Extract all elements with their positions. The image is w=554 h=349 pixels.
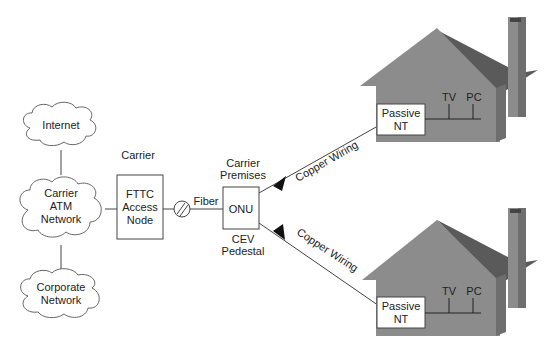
- pedestal-label: Pedestal: [222, 245, 265, 257]
- passive-nt-top-label-1: Passive: [382, 107, 421, 119]
- carrier-atm-cloud: Carrier ATM Network: [20, 177, 101, 237]
- corporate-label-1: Corporate: [37, 281, 86, 293]
- pc-top-label: PC: [466, 91, 481, 103]
- carrier-atm-label-2: ATM: [50, 200, 72, 212]
- internet-cloud: Internet: [23, 102, 95, 145]
- fttc-label-2: Access: [122, 201, 158, 213]
- carrier-label: Carrier: [121, 149, 155, 161]
- fiber-label: Fiber: [193, 195, 218, 207]
- tv-top-label: TV: [442, 91, 457, 103]
- carrier-atm-label-1: Carrier: [44, 187, 78, 199]
- pc-bottom-label: PC: [466, 285, 481, 297]
- onu-label: ONU: [229, 203, 254, 215]
- copper-wiring-top-label: Copper Wiring: [293, 138, 360, 184]
- carrier-premises-label-1: Carrier: [226, 157, 260, 169]
- arrowhead-bottom-icon: [273, 224, 285, 240]
- carrier-premises-label-2: Premises: [220, 169, 266, 181]
- fiber-splice-icon: [174, 201, 190, 217]
- passive-nt-top-label-2: NT: [394, 120, 409, 132]
- copper-wiring-bottom-label: Copper Wiring: [295, 226, 361, 274]
- house-bottom: Passive NT TV PC: [362, 208, 538, 336]
- carrier-atm-label-3: Network: [41, 213, 82, 225]
- fttc-diagram: Internet Carrier ATM Network Corporate N…: [0, 0, 554, 349]
- fttc-label-3: Node: [127, 214, 153, 226]
- corporate-cloud: Corporate Network: [21, 269, 100, 318]
- copper-bottom-link: [259, 223, 385, 310]
- onu-box: ONU: [223, 187, 259, 229]
- passive-nt-bottom-label-2: NT: [394, 313, 409, 325]
- passive-nt-bottom-label-1: Passive: [382, 300, 421, 312]
- fttc-access-node: FTTC Access Node: [117, 175, 163, 239]
- tv-bottom-label: TV: [442, 285, 457, 297]
- house-top: Passive NT TV PC: [360, 17, 538, 142]
- fttc-label-1: FTTC: [126, 188, 154, 200]
- corporate-label-2: Network: [41, 294, 82, 306]
- cev-label: CEV: [232, 233, 255, 245]
- internet-label: Internet: [42, 119, 79, 131]
